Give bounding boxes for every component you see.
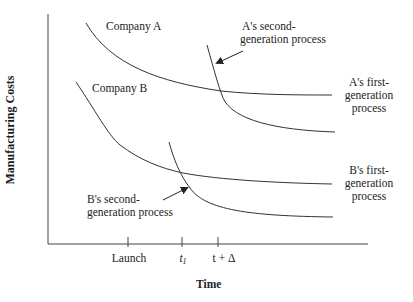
y-axis-label: Manufacturing Costs [3,75,18,184]
curve-b-second-generation [169,142,333,217]
tick-label-t1-sub: 1 [183,257,187,266]
label-a-first-generation: A's first- generation process [342,76,396,115]
label-a-second-line2: generation process [240,33,326,46]
curve-b-first-generation [76,82,332,184]
curve-a-second-generation [207,45,335,132]
label-company-a: Company A [106,20,161,33]
label-a-first-line3: process [342,102,396,115]
label-b-first-generation: B's first- generation process [342,164,396,203]
label-a-second-generation: A's second- generation process [240,20,326,46]
label-b-first-line1: B's first- [342,164,396,177]
label-a-first-line2: generation [342,89,396,102]
label-b-second-line1: B's second- [87,193,173,206]
label-b-first-line3: process [342,190,396,203]
label-b-second-line2: generation process [87,206,173,219]
diagram-canvas [0,0,413,302]
arrow-a-second-generation [217,51,243,63]
label-company-b: Company B [92,82,147,95]
label-b-first-line2: generation [342,177,396,190]
x-axis-label: Time [196,278,221,291]
label-b-second-generation: B's second- generation process [87,193,173,219]
label-a-second-line1: A's second- [240,20,326,33]
tick-label-t-delta: t + Δ [213,252,236,264]
label-a-first-line1: A's first- [342,76,396,89]
tick-label-t1: t1 [179,252,186,266]
tick-label-launch: Launch [112,252,146,264]
